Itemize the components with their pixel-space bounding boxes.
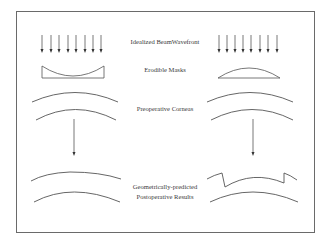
beam-wavefront-label: Idealized BeamWavefront [131, 37, 200, 46]
left-postop-result-icon [31, 172, 121, 202]
right-convex-mask-icon [218, 68, 280, 78]
right-down-arrow-icon [252, 119, 255, 156]
result-label-line1: Geometrically-predicted [133, 182, 197, 191]
result-label-line2: Postoperative Results [137, 192, 194, 201]
right-preop-cornea-icon [207, 93, 293, 121]
left-concave-mask-icon [42, 66, 104, 78]
erodible-masks-label: Erodible Masks [144, 65, 186, 74]
right-postop-result-icon [207, 173, 298, 202]
right-beam-arrows-icon [218, 35, 279, 53]
left-beam-arrows-icon [41, 35, 103, 53]
preoperative-corneas-label: Preoperative Corneas [137, 104, 194, 113]
left-preop-cornea-icon [32, 93, 118, 121]
left-down-arrow-icon [73, 119, 76, 156]
